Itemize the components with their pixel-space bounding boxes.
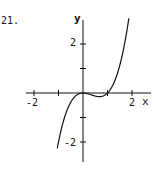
x-axis-label: x [142, 97, 149, 107]
chart-plot [0, 0, 156, 188]
y-tick-label-neg2: -2 [64, 138, 76, 148]
y-axis-label: y [74, 14, 81, 24]
curve-line [57, 18, 129, 148]
x-tick-label-2: 2 [129, 98, 135, 108]
x-tick-label-neg2: -2 [26, 98, 38, 108]
y-tick-label-2: 2 [70, 38, 76, 48]
